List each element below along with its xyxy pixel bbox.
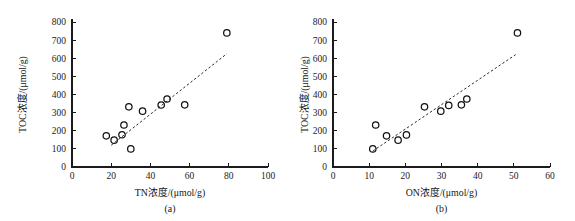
y-tick-label: 0 <box>61 162 66 172</box>
y-tick-label: 300 <box>313 108 328 118</box>
data-point <box>458 102 464 108</box>
data-point <box>464 96 470 102</box>
data-point <box>111 137 117 143</box>
data-point <box>383 133 389 139</box>
x-tick-label: 80 <box>224 171 234 181</box>
y-tick-label: 700 <box>52 36 67 46</box>
panel-caption: (b) <box>436 203 447 215</box>
y-tick-label: 400 <box>313 90 328 100</box>
trend-line <box>373 55 516 151</box>
data-point <box>370 146 376 152</box>
y-tick-label: 800 <box>313 17 328 27</box>
x-tick-label: 20 <box>401 171 411 181</box>
y-tick-label: 800 <box>52 17 67 27</box>
scatter-plot-a: 0204060801000100200300400500600700800TN浓… <box>0 0 287 221</box>
y-tick-label: 600 <box>52 54 67 64</box>
x-tick-label: 60 <box>545 171 555 181</box>
y-tick-label: 100 <box>52 144 67 154</box>
data-point <box>126 104 132 110</box>
x-tick-label: 0 <box>331 171 336 181</box>
x-tick-label: 100 <box>261 171 276 181</box>
y-tick-label: 100 <box>313 144 328 154</box>
y-tick-label: 500 <box>52 72 67 82</box>
chart-panel-a: 0204060801000100200300400500600700800TN浓… <box>0 0 287 221</box>
y-tick-label: 400 <box>52 90 67 100</box>
panel-caption: (a) <box>165 203 176 215</box>
chart-panel-b: 01020304050600100200300400500600700800ON… <box>288 0 575 221</box>
x-tick-label: 40 <box>146 171 156 181</box>
x-axis-title: ON浓度/(μmol/g) <box>406 186 478 199</box>
y-tick-label: 600 <box>313 54 328 64</box>
y-tick-label: 700 <box>313 36 328 46</box>
data-point <box>395 137 401 143</box>
y-tick-label: 300 <box>52 108 67 118</box>
x-axis-title: TN浓度/(μmol/g) <box>135 186 205 199</box>
x-tick-label: 30 <box>437 171 447 181</box>
data-point <box>139 108 145 114</box>
x-tick-label: 20 <box>106 171 116 181</box>
data-point <box>119 132 125 138</box>
data-point <box>182 102 188 108</box>
x-tick-label: 0 <box>70 171 75 181</box>
axis-spines <box>72 19 268 167</box>
data-point <box>421 104 427 110</box>
scatter-plot-b: 01020304050600100200300400500600700800ON… <box>288 0 575 221</box>
data-point <box>103 133 109 139</box>
y-tick-label: 200 <box>313 126 328 136</box>
x-tick-label: 60 <box>185 171 195 181</box>
x-tick-label: 40 <box>473 171 483 181</box>
trend-line <box>111 54 227 146</box>
data-point <box>128 146 134 152</box>
y-axis-title: TOC浓度/(μmol/g) <box>16 56 29 133</box>
data-point <box>372 122 378 128</box>
axis-spines <box>333 19 550 167</box>
figure-container: 0204060801000100200300400500600700800TN浓… <box>0 0 575 221</box>
data-point <box>403 132 409 138</box>
y-tick-label: 200 <box>52 126 67 136</box>
x-tick-label: 10 <box>364 171 374 181</box>
data-point <box>514 30 520 36</box>
x-tick-label: 50 <box>509 171 519 181</box>
y-tick-label: 0 <box>322 162 327 172</box>
data-point <box>446 102 452 108</box>
data-point <box>438 108 444 114</box>
data-point <box>224 30 230 36</box>
data-point <box>158 102 164 108</box>
data-point <box>121 122 127 128</box>
y-axis-title: TOC浓度/(μmol/g) <box>298 56 311 133</box>
y-tick-label: 500 <box>313 72 328 82</box>
